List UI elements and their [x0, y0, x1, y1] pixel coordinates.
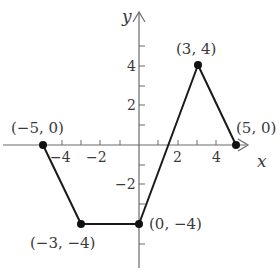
function-graph: y x −4 −2 2 4 4 2 −2 (−5, 0) (−3, −4) (0…: [0, 0, 280, 276]
y-axis-label: y: [121, 6, 132, 26]
point-label-neg3-neg4: (−3, −4): [30, 234, 95, 252]
x-axis-label: x: [257, 151, 267, 171]
x-tick-label-2: 2: [173, 149, 182, 165]
y-tick-label-2: 2: [127, 97, 136, 113]
point-label-5-0: (5, 0): [236, 119, 276, 137]
y-tick-label-neg2: −2: [115, 176, 136, 192]
x-tick-label-neg4: −4: [50, 149, 71, 165]
x-tick-label-neg2: −2: [86, 149, 107, 165]
point-label-neg5-0: (−5, 0): [11, 119, 64, 137]
point-neg3-neg4: [77, 220, 85, 228]
point-5-0: [232, 141, 240, 149]
y-tick-label-4: 4: [127, 58, 136, 74]
point-neg5-0: [39, 141, 47, 149]
point-3-4: [194, 61, 202, 69]
point-0-neg4: [135, 220, 143, 228]
x-tick-label-4: 4: [212, 149, 221, 165]
point-label-0-neg4: (0, −4): [149, 215, 202, 233]
point-label-3-4: (3, 4): [176, 40, 216, 58]
